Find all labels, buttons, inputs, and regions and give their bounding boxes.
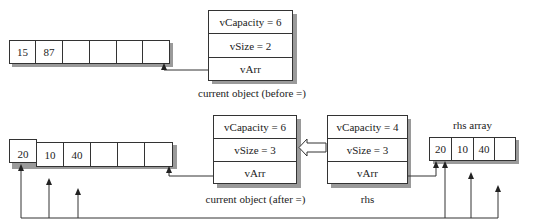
element-copy-lines <box>21 167 498 218</box>
pointer-arrow-after <box>166 166 213 176</box>
element-copy-arrowheads <box>18 161 501 195</box>
connector-layer <box>0 0 552 224</box>
copy-arrow-icon <box>299 139 326 156</box>
pointer-arrow-rhs <box>408 161 439 176</box>
pointer-arrow-before <box>161 63 208 70</box>
